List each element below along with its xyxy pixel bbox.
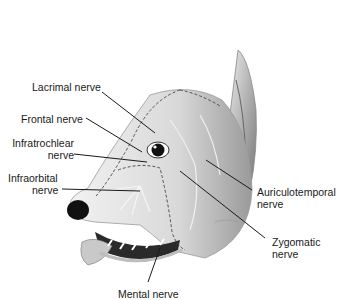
- head: [70, 90, 252, 258]
- label-mental-nerve: Mental nerve: [118, 288, 179, 300]
- label-infraorbital-nerve: Infraorbital nerve: [8, 172, 58, 196]
- label-infratrochlear-nerve: Infratrochlear nerve: [10, 137, 74, 161]
- label-zygomatic-nerve: Zygomatic nerve: [272, 236, 320, 260]
- label-lacrimal-nerve: Lacrimal nerve: [32, 81, 101, 93]
- anatomical-diagram: Lacrimal nerve Frontal nerve Infratrochl…: [0, 0, 360, 300]
- nose: [67, 200, 89, 220]
- label-frontal-nerve: Frontal nerve: [21, 113, 83, 125]
- label-auriculotemporal-nerve: Auriculotemporal nerve: [257, 186, 336, 210]
- tongue: [81, 239, 112, 265]
